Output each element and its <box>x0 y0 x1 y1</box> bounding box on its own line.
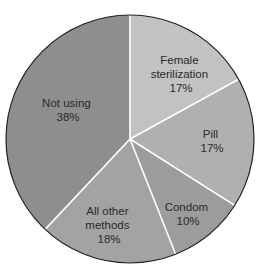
pie-chart: Female sterilization 17% Pill 17% Condom… <box>0 0 264 278</box>
